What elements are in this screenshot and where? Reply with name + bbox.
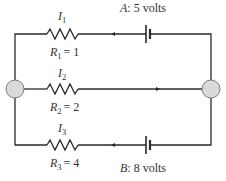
current-arrow-i3 (111, 143, 115, 147)
resistor-r1 (47, 29, 78, 39)
label-i1: I1 (57, 9, 66, 25)
label-r1: R1= 1 (49, 45, 79, 61)
battery-b (146, 136, 150, 154)
label-battery-a: A: 5 volts (119, 1, 166, 15)
label-battery-b: B: 8 volts (120, 161, 166, 175)
current-arrow-i2 (156, 87, 160, 91)
wire-top-right (150, 34, 211, 80)
wire-bottom-right (150, 98, 211, 145)
resistor-r2 (47, 84, 78, 94)
wire-bottom-left (15, 98, 47, 145)
branch-bottom (15, 98, 211, 154)
current-arrow-i1 (111, 32, 115, 36)
battery-a (146, 25, 150, 43)
left-junction-node (6, 80, 24, 98)
branch-top (15, 25, 211, 80)
label-r2: R2= 2 (49, 100, 79, 116)
wire-top-left (15, 34, 47, 80)
branch-middle (24, 84, 202, 94)
right-junction-node (202, 80, 220, 98)
circuit-diagram: I1 R1= 1 A: 5 volts I2 R2= 2 I3 R3= 4 B:… (0, 0, 226, 181)
label-r3: R3= 4 (49, 156, 79, 172)
label-i3: I3 (57, 121, 66, 137)
resistor-r3 (47, 140, 78, 150)
label-i2: I2 (57, 66, 66, 82)
